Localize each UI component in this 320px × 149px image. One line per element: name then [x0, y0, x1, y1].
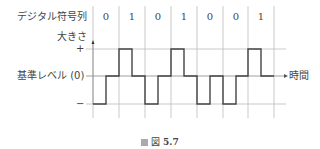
time-axis-arrow-icon: [284, 74, 288, 78]
waveform-diagram: [0, 0, 320, 149]
figure-caption: 図 5.7: [0, 135, 320, 148]
caption-square-icon: [141, 139, 148, 146]
amplitude-axis-arrow-icon: [92, 40, 95, 44]
grid-lines: [86, 6, 286, 118]
caption-prefix: 図: [151, 137, 160, 147]
waveform-line: [93, 49, 274, 104]
caption-number: 5.7: [163, 137, 179, 147]
